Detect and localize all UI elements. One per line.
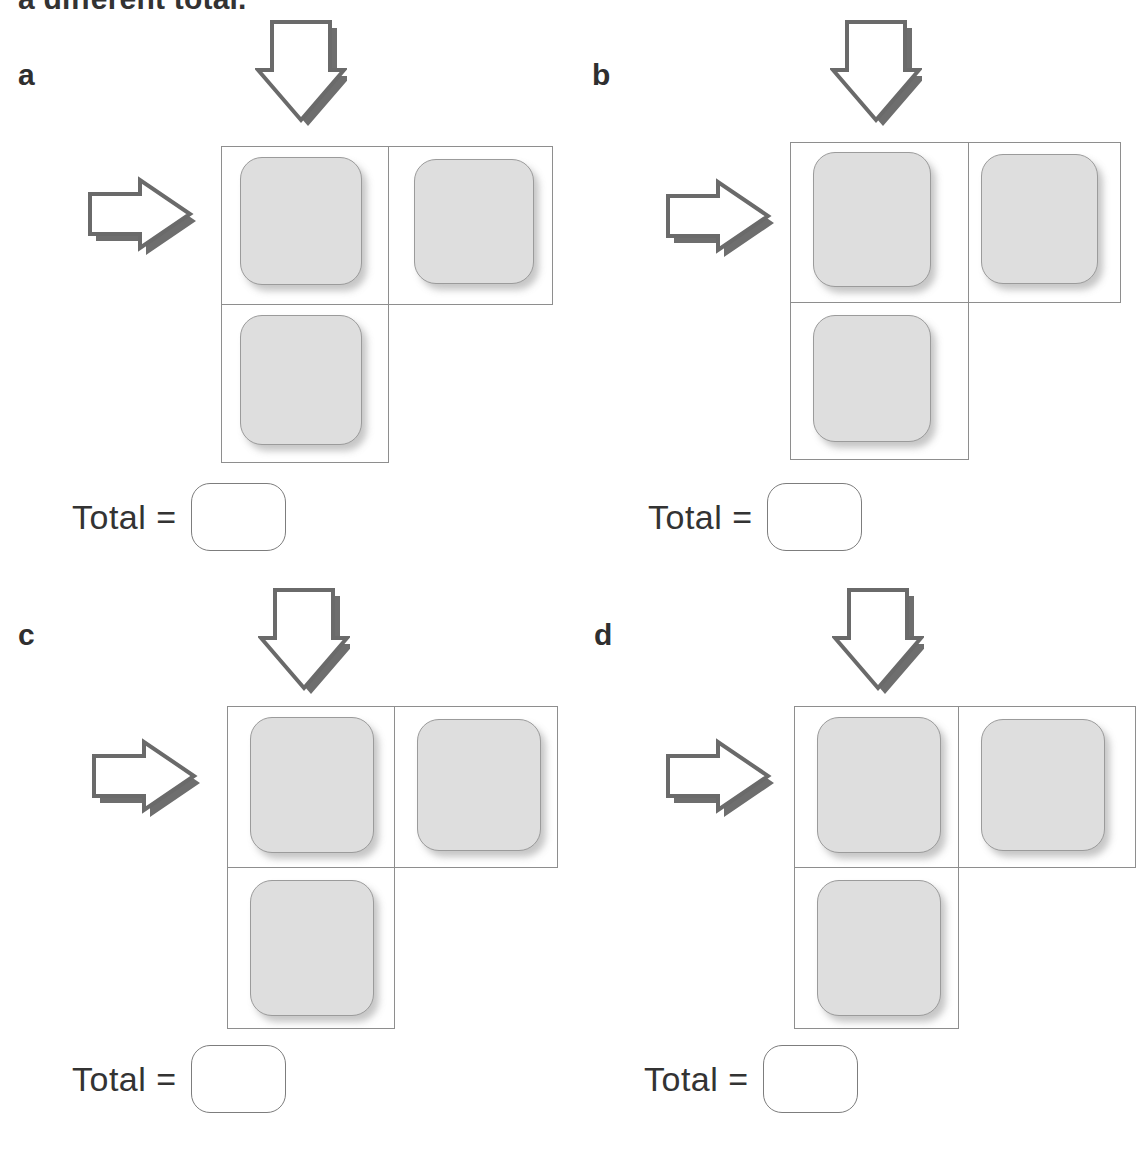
grid-cell [221,146,389,305]
array-grid-c [227,706,558,1029]
arrow-right-icon [82,730,204,822]
array-grid-b [790,142,1121,460]
arrow-down-icon [258,576,350,694]
tile [817,717,941,853]
answer-box[interactable] [191,1045,286,1113]
arrow-right-icon [656,170,778,262]
grid-cell [794,706,959,868]
arrow-right-icon [656,730,778,822]
panel-letter-d: d [594,620,612,650]
arrow-right-icon [78,168,200,260]
panel-letter-b: b [592,60,610,90]
grid-cell [227,706,395,868]
grid-cell [790,142,969,303]
arrow-down-icon [832,576,924,694]
tile [981,154,1098,284]
grid-cell [794,867,959,1029]
tile [813,152,931,287]
answer-box[interactable] [763,1045,858,1113]
grid-cell [227,867,395,1029]
grid-cell [968,142,1121,303]
total-label: Total = [72,1062,177,1096]
panel-b: b Total = [572,0,1144,578]
tile [250,880,374,1016]
array-grid-d [794,706,1136,1029]
panel-a: a Total = [0,0,572,578]
array-grid-a [221,146,553,463]
tile [817,880,941,1016]
tile [240,315,362,445]
tile [250,717,374,853]
arrow-down-icon [830,8,922,126]
panel-d: d Total = [572,578,1144,1156]
tile [414,159,534,284]
tile [813,315,931,442]
arrow-down-icon [255,8,347,126]
total-label: Total = [72,500,177,534]
answer-box[interactable] [767,483,862,551]
panel-letter-a: a [18,60,35,90]
grid-cell [790,302,969,460]
tile [417,719,541,851]
total-row-d: Total = [644,1045,858,1113]
grid-cell [394,706,558,868]
total-row-c: Total = [72,1045,286,1113]
total-label: Total = [648,500,753,534]
grid-cell [388,146,553,305]
grid-cell [958,706,1136,868]
panel-c: c Total = [0,578,572,1156]
total-row-b: Total = [648,483,862,551]
tile [240,157,362,285]
panel-letter-c: c [18,620,35,650]
total-row-a: Total = [72,483,286,551]
total-label: Total = [644,1062,749,1096]
grid-cell [221,304,389,463]
answer-box[interactable] [191,483,286,551]
tile [981,719,1105,851]
